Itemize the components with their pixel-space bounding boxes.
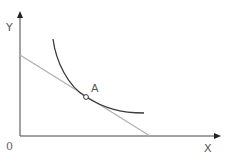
y-axis-arrow-icon <box>17 11 23 18</box>
tangency-point-a <box>84 95 89 100</box>
x-axis-arrow-icon <box>214 133 221 139</box>
indifference-curve <box>53 39 144 113</box>
indifference-curve-diagram: Y X 0 A <box>0 0 231 161</box>
x-axis-label: X <box>204 142 212 155</box>
point-a-label: A <box>91 82 99 95</box>
y-axis <box>17 11 23 136</box>
origin-label: 0 <box>6 140 13 153</box>
x-axis <box>20 133 221 139</box>
y-axis-label: Y <box>5 21 13 34</box>
